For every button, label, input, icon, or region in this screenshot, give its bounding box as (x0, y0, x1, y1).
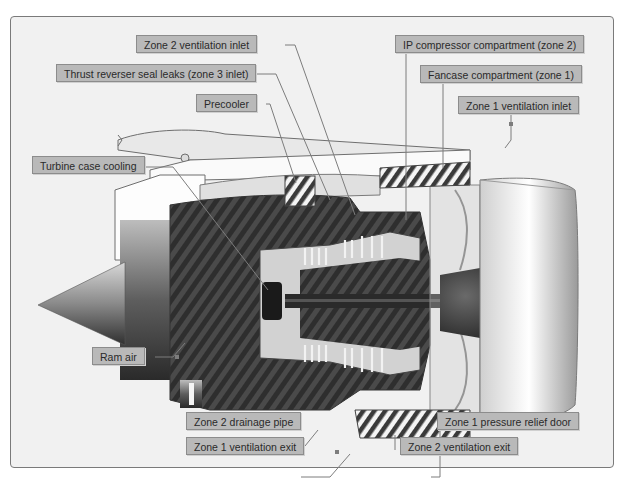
label-zone1-ventilation-exit: Zone 1 ventilation exit (186, 437, 304, 455)
label-fancase-compartment: Fancase compartment (zone 1) (420, 65, 582, 83)
label-zone1-pressure-relief-door: Zone 1 pressure relief door (437, 412, 579, 430)
label-ram-air: Ram air (92, 347, 145, 365)
label-zone2-drainage-pipe: Zone 2 drainage pipe (186, 412, 301, 430)
label-ip-compressor-compartment: IP compressor compartment (zone 2) (395, 35, 584, 53)
label-zone2-ventilation-exit: Zone 2 ventilation exit (400, 437, 518, 455)
label-precooler: Precooler (196, 94, 257, 112)
label-turbine-case-cooling: Turbine case cooling (32, 156, 145, 174)
label-thrust-reverser-seal-leaks: Thrust reverser seal leaks (zone 3 inlet… (56, 64, 256, 82)
label-zone2-ventilation-inlet: Zone 2 ventilation inlet (136, 35, 257, 53)
label-zone1-ventilation-inlet: Zone 1 ventilation inlet (458, 96, 579, 114)
